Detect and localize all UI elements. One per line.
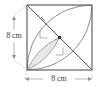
left-dimension-arrow-bottom	[12, 55, 16, 59]
left-side-dimension-label: 8 cm	[1, 31, 27, 40]
left-dimension-arrow-top	[12, 16, 16, 20]
bottom-side-dimension-label: 8 cm	[44, 74, 74, 83]
left-dimension-leader-bottom	[13, 59, 27, 70]
bottom-dimension-leader-left	[25, 70, 27, 79]
bottom-dimension-arrow-right	[88, 77, 92, 81]
center-intersection-dot	[58, 36, 61, 39]
geometry-figure: 8 cm 8 cm	[0, 0, 103, 87]
left-dimension-leader-top	[13, 5, 27, 16]
